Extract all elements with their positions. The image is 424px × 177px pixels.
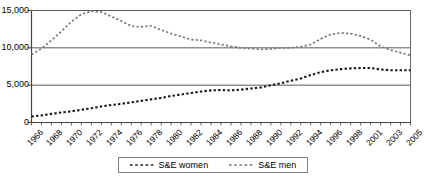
legend-swatch-se-men [229, 162, 255, 168]
legend-item-se-women: S&E women [130, 161, 209, 170]
legend-label-se-women: S&E women [159, 161, 209, 170]
legend-label-se-men: S&E men [258, 161, 296, 170]
chart-legend: S&E women S&E men [118, 157, 308, 173]
legend-item-se-men: S&E men [229, 161, 296, 170]
legend-swatch-se-women [130, 162, 156, 168]
